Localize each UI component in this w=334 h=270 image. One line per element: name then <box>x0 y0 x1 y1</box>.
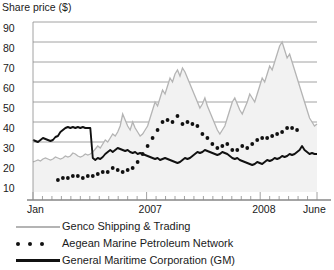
series-dot-aegean <box>260 136 264 140</box>
chart-legend: Genco Shipping & Trading Aegean Marine P… <box>0 218 334 269</box>
series-dot-aegean <box>146 144 150 148</box>
series-dot-aegean <box>101 170 105 174</box>
series-dot-aegean <box>86 174 90 178</box>
series-dot-aegean <box>106 170 110 174</box>
legend-label-genco: Genco Shipping & Trading <box>62 220 190 233</box>
series-dot-aegean <box>136 160 140 164</box>
series-dot-aegean <box>116 168 120 172</box>
series-dot-aegean <box>285 126 289 130</box>
series-dot-aegean <box>290 126 294 130</box>
series-dot-aegean <box>71 174 75 178</box>
series-dot-aegean <box>295 128 299 132</box>
series-dot-aegean <box>111 166 115 170</box>
series-dot-aegean <box>265 136 269 140</box>
series-dot-aegean <box>240 144 244 148</box>
series-dot-aegean <box>56 178 60 182</box>
legend-item-genco: Genco Shipping & Trading <box>0 218 334 235</box>
series-dot-aegean <box>91 174 95 178</box>
y-tick-label: 70 <box>3 63 27 74</box>
series-dot-aegean <box>270 134 274 138</box>
series-dot-aegean <box>255 138 259 142</box>
series-dot-aegean <box>141 152 145 156</box>
series-dot-aegean <box>161 120 165 124</box>
series-layer <box>33 42 317 192</box>
legend-item-aegean: Aegean Marine Petroleum Network <box>0 235 334 252</box>
series-dot-aegean <box>201 132 205 136</box>
series-dot-aegean <box>186 120 190 124</box>
series-dot-aegean <box>245 146 249 150</box>
series-dot-aegean <box>156 128 160 132</box>
legend-key-dots <box>14 237 62 251</box>
y-tick-label: 60 <box>3 83 27 94</box>
y-tick-label: 90 <box>3 23 27 34</box>
series-dot-aegean <box>151 136 155 140</box>
x-tick-label: 2007 <box>139 203 162 215</box>
y-tick-label: 80 <box>3 43 27 54</box>
y-tick-label: 10 <box>3 183 27 194</box>
series-dot-aegean <box>76 174 80 178</box>
series-dot-aegean <box>275 132 279 136</box>
legend-label-aegean: Aegean Marine Petroleum Network <box>62 237 233 250</box>
series-dot-aegean <box>225 142 229 146</box>
legend-item-general-maritime: General Maritime Corporation (GM) <box>0 252 334 269</box>
y-tick-label: 20 <box>3 163 27 174</box>
y-tick-label: 40 <box>3 123 27 134</box>
series-dot-aegean <box>191 122 195 126</box>
series-dot-aegean <box>210 142 214 146</box>
series-dot-aegean <box>66 176 70 180</box>
series-dot-aegean <box>280 130 284 134</box>
series-dot-aegean <box>171 120 175 124</box>
y-tick-label: 50 <box>3 103 27 114</box>
series-dot-aegean <box>220 144 224 148</box>
series-dot-aegean <box>230 148 234 152</box>
legend-key-line-gray <box>14 220 62 234</box>
y-tick-label: 30 <box>3 143 27 154</box>
series-dot-aegean <box>121 170 125 174</box>
series-dot-aegean <box>176 114 180 118</box>
series-dot-aegean <box>61 176 65 180</box>
series-dot-aegean <box>166 118 170 122</box>
series-dot-aegean <box>196 124 200 128</box>
share-price-chart: Share price ($) 102030405060708090 Jan20… <box>0 0 334 270</box>
x-tick-label: Jan <box>27 203 44 215</box>
legend-key-line-black <box>14 254 62 268</box>
series-dot-aegean <box>235 148 239 152</box>
series-dot-aegean <box>181 122 185 126</box>
series-dot-aegean <box>81 176 85 180</box>
x-tick-label: 2008 <box>252 203 275 215</box>
series-dot-aegean <box>131 166 135 170</box>
series-dot-aegean <box>126 168 130 172</box>
series-dot-aegean <box>250 142 254 146</box>
series-dot-aegean <box>205 136 209 140</box>
legend-label-general-maritime: General Maritime Corporation (GM) <box>62 254 235 267</box>
series-dot-aegean <box>215 146 219 150</box>
series-dot-aegean <box>96 172 100 176</box>
x-tick-label: June <box>303 203 326 215</box>
